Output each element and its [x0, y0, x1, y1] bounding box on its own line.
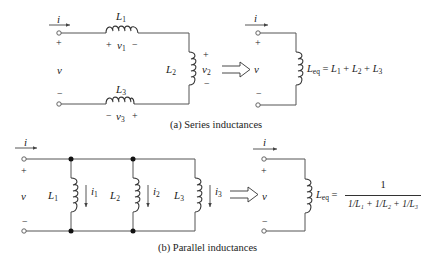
node-dot [69, 157, 74, 162]
node-dot [131, 229, 136, 234]
inductor-l1-coil-icon [71, 178, 78, 212]
parallel-caption: (b) Parallel inductances [158, 243, 257, 254]
series-caption: (a) Series inductances [170, 120, 262, 131]
v2-label: v2 [202, 64, 211, 77]
v2-minus-sign: − [204, 79, 210, 89]
node-dot [69, 229, 74, 234]
inductance-figure: i + v − L1 + v1 − L2 + v2 − L3 − v3 + i … [0, 0, 428, 264]
series-eq-minus-sign: − [256, 89, 262, 99]
parallel-i1-label: i1 [91, 186, 98, 199]
parallel-i2-label: i2 [153, 186, 160, 199]
parallel-l2-label: L2 [110, 190, 120, 203]
inductor-l2-coil-icon [133, 178, 140, 212]
eq-terminal-bottom [262, 229, 266, 233]
v1-plus-sign: + [106, 40, 112, 50]
v1-label: v1 [117, 40, 126, 53]
series-eq-plus-sign: + [255, 38, 261, 48]
series-current-label: i [57, 14, 60, 25]
parallel-eq-numerator: 1 [343, 179, 423, 190]
parallel-eq-voltage-label: v [262, 191, 267, 202]
inductor-l2-coil-icon [189, 52, 196, 85]
eq-terminal-bottom [256, 103, 260, 107]
l3-label: L3 [116, 84, 126, 97]
v3-label: v3 [116, 111, 125, 124]
fraction-bar [345, 195, 421, 196]
circuit-drawing [0, 0, 428, 264]
series-voltage-label: v [57, 65, 62, 76]
v1-minus-sign: − [132, 40, 138, 50]
parallel-current-label: i [24, 137, 27, 148]
parallel-voltage-label: v [21, 191, 26, 202]
series-plus-sign: + [56, 38, 62, 48]
inductor-l3-coil-icon [195, 178, 202, 212]
inductor-l3-coil-icon [106, 97, 134, 104]
implies-arrow-icon [230, 187, 258, 202]
l1-label: L1 [116, 11, 126, 24]
v3-minus-sign: − [106, 111, 112, 121]
parallel-eq-denominator: 1/L₁ + 1/L₂ + 1/L₃ [343, 199, 423, 209]
eq-terminal-top [256, 31, 260, 35]
series-minus-sign: − [57, 89, 63, 99]
v3-plus-sign: + [132, 111, 138, 121]
series-circuit [49, 25, 303, 107]
series-eq-formula: Leq = L1 + L2 + L3 [307, 64, 382, 76]
parallel-eq-lhs: Leq = [316, 190, 337, 202]
parallel-l1-label: L1 [48, 190, 58, 203]
v2-plus-sign: + [203, 50, 209, 60]
parallel-plus-sign: + [21, 166, 27, 176]
inductor-leq-coil-icon [305, 179, 312, 213]
parallel-eq-plus-sign: + [261, 166, 267, 176]
inductor-leq-coil-icon [296, 52, 303, 85]
eq-terminal-top [262, 157, 266, 161]
series-eq-voltage-label: v [254, 64, 259, 75]
parallel-eq-current-label: i [263, 137, 266, 148]
series-eq-current-label: i [254, 13, 257, 24]
parallel-l3-label: L3 [174, 190, 184, 203]
l2-label: L2 [166, 64, 176, 77]
implies-arrow-icon [222, 62, 250, 77]
inductor-l1-coil-icon [106, 26, 138, 33]
parallel-i3-label: i3 [215, 186, 222, 199]
terminal-top [57, 31, 61, 35]
node-dot [131, 157, 136, 162]
parallel-eq-minus-sign: − [262, 217, 268, 227]
terminal-bottom [22, 229, 26, 233]
terminal-top [22, 157, 26, 161]
parallel-minus-sign: − [22, 217, 28, 227]
terminal-bottom [57, 102, 61, 106]
